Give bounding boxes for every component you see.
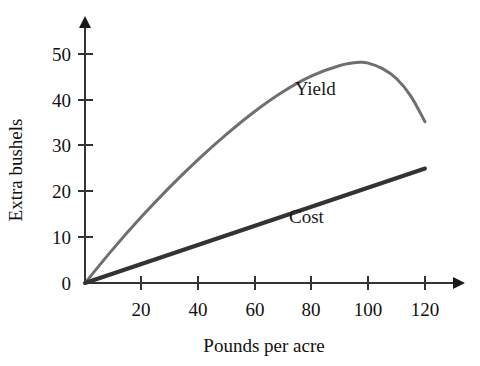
yield-series-label: Yield [295, 78, 337, 99]
y-tick-label-5: 50 [52, 44, 71, 65]
axis-lines [85, 26, 455, 283]
x-tick-label-4: 100 [354, 299, 383, 320]
x-tick-labels: 20 40 60 80 100 120 [132, 299, 440, 320]
yield-curve [85, 62, 425, 283]
chart-canvas: 20 40 60 80 100 120 0 10 20 30 40 50 Yie… [0, 0, 480, 366]
x-tick-label-5: 120 [411, 299, 440, 320]
y-tick-label-3: 30 [52, 135, 71, 156]
y-tick-labels: 0 10 20 30 40 50 [52, 44, 71, 294]
y-tick-label-1: 10 [52, 227, 71, 248]
y-tick-label-4: 40 [52, 90, 71, 111]
chart-figure: 20 40 60 80 100 120 0 10 20 30 40 50 Yie… [0, 0, 480, 366]
x-axis-title: Pounds per acre [203, 335, 324, 356]
x-tick-label-2: 60 [246, 299, 265, 320]
x-tick-label-3: 80 [302, 299, 321, 320]
cost-line [85, 169, 425, 284]
y-tick-label-2: 20 [52, 181, 71, 202]
x-tick-label-0: 20 [132, 299, 151, 320]
cost-series-label: Cost [289, 206, 325, 227]
y-tick-label-0: 0 [62, 273, 72, 294]
x-tick-label-1: 40 [189, 299, 208, 320]
y-axis-title: Extra bushels [5, 119, 26, 222]
